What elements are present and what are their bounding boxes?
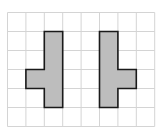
grid-diagram bbox=[0, 0, 161, 134]
left-shape bbox=[26, 32, 63, 108]
right-shape bbox=[100, 32, 137, 108]
